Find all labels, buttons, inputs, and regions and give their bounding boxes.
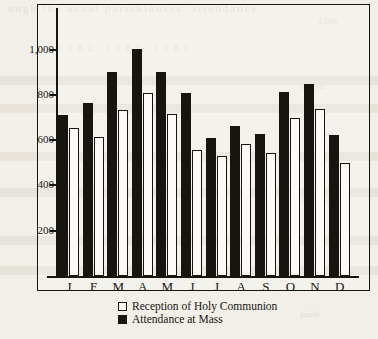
x-axis-line <box>47 276 359 278</box>
bar-attendance-at-mass <box>329 135 339 276</box>
bar-group <box>255 0 279 276</box>
x-axis-tick-label: M <box>155 279 179 295</box>
x-axis-labels: JFMAMJJASOND <box>58 279 358 299</box>
bar-group <box>156 0 180 276</box>
open-square-swatch-icon <box>118 302 127 311</box>
bar-attendance-at-mass <box>181 93 191 276</box>
y-axis-tick-label: 800 <box>14 89 54 100</box>
bar-attendance-at-mass <box>279 92 289 276</box>
legend-item-reception: Reception of Holy Communion <box>118 300 338 313</box>
y-axis-tick-label: 200 <box>14 225 54 236</box>
x-axis-tick-label: D <box>328 279 352 295</box>
x-axis-tick-label: S <box>254 279 278 295</box>
bar-reception-of-holy-communion <box>340 163 350 276</box>
bar-attendance-at-mass <box>107 72 117 276</box>
bar-attendance-at-mass <box>255 134 265 276</box>
bar-attendance-at-mass <box>58 115 68 276</box>
bar-attendance-at-mass <box>156 72 166 276</box>
legend-label: Attendance at Mass <box>132 314 223 326</box>
x-axis-tick-label: N <box>303 279 327 295</box>
bar-attendance-at-mass <box>206 138 216 276</box>
bar-reception-of-holy-communion <box>143 93 153 276</box>
x-axis-tick-label: M <box>106 279 130 295</box>
bar-group <box>304 0 328 276</box>
bar-group <box>206 0 230 276</box>
bar-group <box>83 0 107 276</box>
bar-group <box>230 0 254 276</box>
legend-item-attendance: Attendance at Mass <box>118 313 338 326</box>
bar-reception-of-holy-communion <box>290 118 300 276</box>
bar-group <box>181 0 205 276</box>
y-axis-tick-label: 1,000 <box>14 44 54 55</box>
bar-group <box>329 0 353 276</box>
bar-attendance-at-mass <box>230 126 240 276</box>
chart-legend: Reception of Holy Communion Attendance a… <box>118 300 338 326</box>
bar-reception-of-holy-communion <box>315 109 325 276</box>
x-axis-tick-label: O <box>278 279 302 295</box>
bar-group <box>132 0 156 276</box>
bar-group <box>58 0 82 276</box>
bar-group <box>107 0 131 276</box>
bar-attendance-at-mass <box>304 84 314 276</box>
bar-group <box>279 0 303 276</box>
legend-label: Reception of Holy Communion <box>132 301 277 313</box>
filled-square-swatch-icon <box>118 315 127 324</box>
x-axis-tick-label: F <box>82 279 106 295</box>
bar-attendance-at-mass <box>83 103 93 276</box>
bar-reception-of-holy-communion <box>167 114 177 276</box>
bar-reception-of-holy-communion <box>241 144 251 276</box>
bar-reception-of-holy-communion <box>118 110 128 276</box>
x-axis-tick-label: J <box>205 279 229 295</box>
bar-reception-of-holy-communion <box>69 128 79 276</box>
bar-reception-of-holy-communion <box>266 153 276 276</box>
bar-reception-of-holy-communion <box>217 156 227 276</box>
y-axis-tick-label: 400 <box>14 179 54 190</box>
x-axis-tick-label: J <box>180 279 204 295</box>
y-axis-tick-label: 600 <box>14 134 54 145</box>
x-axis-tick-label: A <box>229 279 253 295</box>
x-axis-tick-label: A <box>131 279 155 295</box>
bar-chart-figure: ough the usual parishioners' attendance … <box>0 0 378 339</box>
bar-reception-of-holy-communion <box>192 150 202 276</box>
bar-reception-of-holy-communion <box>94 137 104 276</box>
bars-layer <box>58 0 358 276</box>
bar-attendance-at-mass <box>132 49 142 276</box>
x-axis-tick-label: J <box>57 279 81 295</box>
